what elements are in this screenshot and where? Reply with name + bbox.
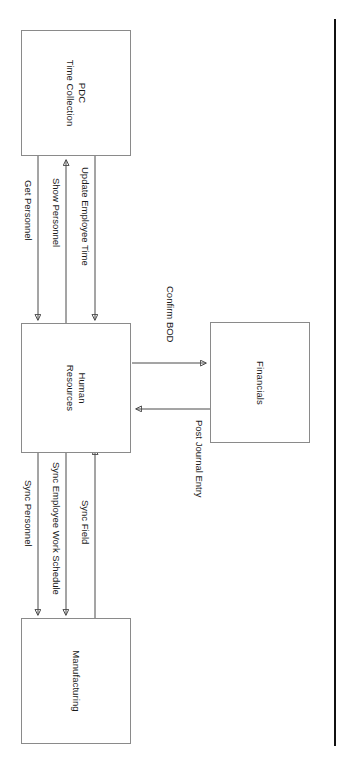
page-edge-line [334, 19, 336, 746]
node-manufacturing[interactable]: Manufacturing [21, 618, 131, 744]
node-pdc-time-collection-label: PDC Time Collection [64, 60, 88, 127]
node-manufacturing-label: Manufacturing [70, 650, 82, 712]
node-financials[interactable]: Financials [210, 322, 310, 443]
node-human-resources-label: Human Resources [64, 365, 88, 411]
node-pdc-time-collection[interactable]: PDC Time Collection [21, 30, 131, 156]
node-human-resources[interactable]: Human Resources [21, 323, 131, 453]
edge-label-sync-field: Sync Field [80, 500, 91, 544]
edge-label-get-personnel: Get Personnel [23, 180, 34, 241]
edge-label-post-journal-entry: Post Journal Entry [194, 420, 205, 498]
node-financials-label: Financials [254, 361, 266, 405]
edge-label-sync-employee-work-schedule: Sync Employee Work Schedule [51, 462, 62, 595]
edge-label-update-employee-time: Update Employee Time [80, 167, 91, 266]
diagram-canvas: PDC Time Collection Human Resources Fina… [0, 0, 349, 762]
edge-label-confirm-bod: Confirm BOD [165, 286, 176, 342]
edge-label-sync-personnel: Sync Personnel [23, 480, 34, 547]
edge-label-show-personnel: Show Personnel [51, 178, 62, 247]
